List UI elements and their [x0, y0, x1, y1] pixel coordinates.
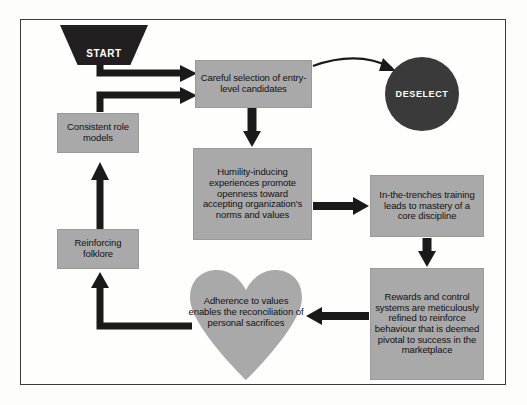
node-consistent-role-models-label: Consistent role models: [58, 122, 138, 143]
node-humility-label: Humility-inducing experiences promote op…: [194, 167, 311, 220]
node-rewards[interactable]: Rewards and control systems are meticulo…: [370, 268, 484, 380]
node-careful-selection[interactable]: Careful selection of entry-level candida…: [195, 60, 312, 108]
node-adherence[interactable]: Adherence to values enables the reconcil…: [188, 268, 304, 380]
node-careful-selection-label: Careful selection of entry-level candida…: [196, 73, 311, 94]
diagram-canvas: START DESELECT Careful selection of entr…: [0, 0, 527, 405]
node-deselect-label: DESELECT: [396, 89, 449, 99]
node-rewards-label: Rewards and control systems are meticulo…: [371, 292, 483, 356]
node-reinforcing-folklore[interactable]: Reinforcing folklore: [57, 229, 139, 269]
node-start-label: START: [86, 48, 122, 59]
node-in-the-trenches-label: In-the-trenches training leads to master…: [371, 190, 483, 222]
node-in-the-trenches[interactable]: In-the-trenches training leads to master…: [370, 175, 484, 237]
node-adherence-label: Adherence to values enables the reconcil…: [188, 296, 304, 329]
node-consistent-role-models[interactable]: Consistent role models: [57, 113, 139, 153]
node-humility[interactable]: Humility-inducing experiences promote op…: [193, 148, 312, 240]
node-deselect[interactable]: DESELECT: [385, 57, 459, 131]
node-reinforcing-folklore-label: Reinforcing folklore: [58, 238, 138, 259]
